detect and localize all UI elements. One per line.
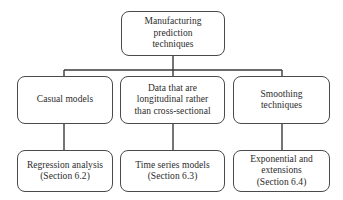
node-label: Smoothing techniques <box>257 89 305 112</box>
node-label: Data that are longitudinal rather than c… <box>131 83 213 118</box>
node-longitudinal-data: Data that are longitudinal rather than c… <box>120 76 225 124</box>
node-label: Time series models (Section 6.3) <box>132 160 212 183</box>
node-label: Exponential and extensions (Section 6.4) <box>247 154 316 189</box>
node-manufacturing-prediction-techniques: Manufacturing prediction techniques <box>121 11 225 56</box>
diagram-canvas: Manufacturing prediction techniques Casu… <box>0 0 343 200</box>
node-label: Manufacturing prediction techniques <box>141 16 204 51</box>
node-label: Casual models <box>34 94 96 106</box>
node-regression-analysis: Regression analysis (Section 6.2) <box>17 150 113 192</box>
node-label: Regression analysis (Section 6.2) <box>24 160 106 183</box>
node-casual-models: Casual models <box>17 76 113 124</box>
node-time-series-models: Time series models (Section 6.3) <box>120 150 225 192</box>
node-smoothing-techniques: Smoothing techniques <box>233 76 330 124</box>
node-exponential-and-extensions: Exponential and extensions (Section 6.4) <box>233 150 330 192</box>
